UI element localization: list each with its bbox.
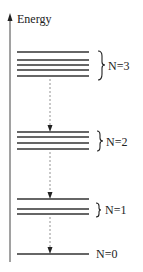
brace-n3-icon <box>98 51 105 80</box>
level-group-n2 <box>17 132 89 149</box>
transition-arrow-n1-n0 <box>48 217 53 254</box>
level-label-n0: N=0 <box>96 247 117 261</box>
arrowhead-icon <box>48 125 53 132</box>
energy-axis <box>8 13 13 262</box>
arrowhead-icon <box>48 192 53 199</box>
brace-n2-icon <box>97 131 103 151</box>
arrowhead-icon <box>48 247 53 254</box>
level-label-n2: N=2 <box>106 135 127 149</box>
brace-n1-icon <box>96 203 101 217</box>
axis-arrow-icon <box>8 13 13 21</box>
transition-arrow-n2-n1 <box>48 152 53 199</box>
level-label-n1: N=1 <box>105 203 126 217</box>
level-group-n3 <box>17 52 89 76</box>
level-label-n3: N=3 <box>108 59 129 73</box>
level-group-n1 <box>17 199 89 214</box>
transition-arrow-n3-n2 <box>48 79 53 132</box>
axis-label: Energy <box>17 12 51 26</box>
